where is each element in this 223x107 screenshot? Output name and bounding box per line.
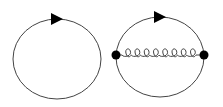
vertex-left <box>112 51 121 60</box>
gluon-propagator <box>116 49 204 57</box>
arrow-right-icon <box>154 11 166 23</box>
feynman-diagram-canvas <box>0 0 223 107</box>
gluon-exchange-diagram <box>112 11 209 97</box>
vertex-right <box>200 51 209 60</box>
fermion-loop-diagram <box>13 13 101 99</box>
fermion-loop-line <box>13 19 101 99</box>
arrow-right-icon <box>51 13 63 25</box>
